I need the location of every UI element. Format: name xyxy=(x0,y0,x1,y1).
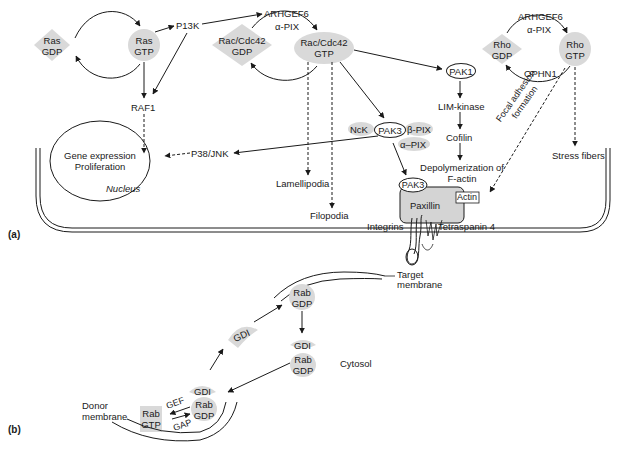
rab-gdp-donor-label-1: Rab xyxy=(195,400,212,411)
pak3-membrane-label: PAK3 xyxy=(400,180,426,191)
rab-gdp-target-label-2: GDP xyxy=(292,299,313,310)
rac-gdp-node: Rac/Cdc42 GDP xyxy=(214,36,270,57)
pak3-complex-node: PAK3 xyxy=(374,122,406,138)
cytosol-label: Cytosol xyxy=(340,358,372,369)
rho-gdp-label-1: Rho xyxy=(493,40,510,51)
rho-gtp-label-2: GTP xyxy=(565,51,585,62)
rho-gtp-node: Rho GTP xyxy=(560,40,590,61)
rho-gdp-node: Rho GDP xyxy=(487,40,517,61)
rac-gtp-label-1: Rac/Cdc42 xyxy=(301,38,348,49)
lim-kinase-label: LIM-kinase xyxy=(438,101,484,112)
raf1-label: RAF1 xyxy=(131,102,155,113)
rac-gef-label-2: α-PIX xyxy=(275,21,299,32)
depolymerization-label: Depolymerization of F-actin xyxy=(420,162,504,184)
rab-gdp-target-node: Rab GDP xyxy=(290,288,314,309)
rho-gtp-label-1: Rho xyxy=(566,40,583,51)
actin-label: Actin xyxy=(457,192,477,203)
ras-gdp-label-1: Ras xyxy=(44,36,61,47)
rab-gdp-cytosol-label-1: Rab xyxy=(294,355,311,366)
rab-gtp-node: Rab GTP xyxy=(140,409,162,430)
panel-b-label: (b) xyxy=(8,424,21,435)
pak1-node: PAK1 xyxy=(446,63,476,79)
proliferation-label: Proliferation xyxy=(58,161,142,172)
panel-a-label: (a) xyxy=(8,229,20,240)
donor-membrane-label: Donor membrane xyxy=(82,400,127,422)
beta-pix-label: β-PIX xyxy=(407,124,431,135)
rab-gdp-cytosol-label-2: GDP xyxy=(293,366,314,377)
depolymerization-line-2: F-actin xyxy=(420,173,504,184)
integrins-label: Integrins xyxy=(367,221,403,232)
donor-membrane-line-2: membrane xyxy=(82,411,127,422)
p38-jnk-label: P38/JNK xyxy=(191,148,229,159)
filopodia-label: Filopodia xyxy=(310,210,349,221)
rab-gdp-donor-node: Rab GDP xyxy=(192,400,216,421)
ras-gtp-node: Ras GTP xyxy=(128,36,160,57)
gdi-cytosol-label: GDI xyxy=(294,340,311,351)
rab-gdp-target-label-1: Rab xyxy=(293,288,310,299)
rac-gdp-label-2: GDP xyxy=(232,47,253,58)
alpha-pix-label: α–PIX xyxy=(400,139,426,150)
gene-expression-label: Gene expression xyxy=(58,150,142,161)
rab-gtp-label-2: GTP xyxy=(141,420,161,431)
target-membrane-label: Target membrane xyxy=(397,270,442,290)
rac-gef-label-1: ARHGEF6 xyxy=(264,8,309,19)
tetraspanin-label: Tetraspanin 4 xyxy=(438,221,495,232)
ras-gdp-label-2: GDP xyxy=(42,47,63,58)
nck-label: NcK xyxy=(350,124,368,135)
depolymerization-line-1: Depolymerization of xyxy=(420,162,504,173)
paxillin-label: Paxillin xyxy=(410,200,440,211)
rab-gdp-cytosol-node: Rab GDP xyxy=(291,355,315,376)
target-membrane-line-2: membrane xyxy=(397,280,442,290)
rab-gdp-donor-label-2: GDP xyxy=(194,411,215,422)
nucleus-text: Gene expression Proliferation xyxy=(58,150,142,172)
rho-gef-label-1: ARHGEF6 xyxy=(518,11,563,22)
rho-gdp-label-2: GDP xyxy=(492,51,513,62)
signaling-pathway-diagram: Ras GDP Ras GTP P13K RAF1 ARHGEF6 α-PIX … xyxy=(0,0,627,450)
rac-gtp-node: Rac/Cdc42 GTP xyxy=(296,38,352,59)
lamellipodia-label: Lamellipodia xyxy=(276,178,329,189)
rho-gef-label-2: α-PIX xyxy=(527,24,551,35)
ras-gtp-label-2: GTP xyxy=(134,47,154,58)
rac-gtp-label-2: GTP xyxy=(314,49,334,60)
donor-membrane-line-1: Donor xyxy=(82,400,127,411)
stress-fibers-label: Stress fibers xyxy=(552,150,605,161)
rab-gtp-label-1: Rab xyxy=(142,409,159,420)
gdi-donor-label: GDI xyxy=(194,386,211,397)
ras-gtp-label-1: Ras xyxy=(136,36,153,47)
rac-gdp-label-1: Rac/Cdc42 xyxy=(219,36,266,47)
ras-gdp-node: Ras GDP xyxy=(36,36,68,57)
p13k-label: P13K xyxy=(176,20,199,31)
nucleus-caption: Nucleus xyxy=(106,183,140,194)
cofilin-label: Cofilin xyxy=(446,132,472,143)
